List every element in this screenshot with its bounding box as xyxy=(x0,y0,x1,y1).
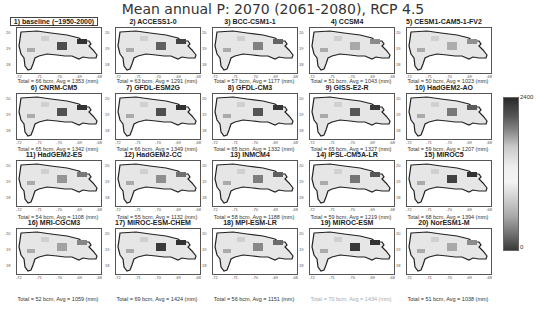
xtick-label: -69 xyxy=(175,207,181,212)
xtick-label: -70 xyxy=(252,140,258,145)
map-panel-17: 17) MIROC-ESM-CHEM 20 19 18 -72-71-70-69… xyxy=(103,219,203,286)
xtick-label: -72 xyxy=(16,275,22,280)
panel-caption: Total = 70 bcm, Avg = 1434 (mm) xyxy=(297,296,405,302)
xtick-label: -70 xyxy=(252,207,258,212)
panel-title: 12) HadGEM2-CC xyxy=(103,151,203,158)
xtick-label: -69 xyxy=(369,275,375,280)
xtick-label: -68 xyxy=(486,140,492,145)
hispaniola-map xyxy=(310,161,394,206)
xtick-label: -71 xyxy=(329,140,335,145)
ytick-label: 18 xyxy=(6,195,10,200)
xtick-row: -72-71-70-69-68 xyxy=(406,207,492,212)
panel-title: 16) MRI-CGCM3 xyxy=(4,219,104,226)
hispaniola-map xyxy=(116,28,200,73)
xtick-label: -72 xyxy=(115,207,121,212)
ytick-label: 19 xyxy=(105,179,109,184)
panel-caption: Total = 69 bcm, Avg = 1424 (mm) xyxy=(103,296,211,302)
panel-title: 7) GFDL-ESM2G xyxy=(103,84,203,91)
ytick-label: 20 xyxy=(299,96,303,101)
xtick-row: -72-71-70-69-68 xyxy=(115,140,201,145)
panel-title: 6) CNRM-CM5 xyxy=(4,84,104,91)
ytick-label: 19 xyxy=(202,179,206,184)
xtick-label: -71 xyxy=(329,207,335,212)
panel-title: 1) baseline (~1950-2000) xyxy=(10,17,98,26)
hispaniola-map xyxy=(213,28,297,73)
ytick-label: 19 xyxy=(396,46,400,51)
map-panel-7: 7) GFDL-ESM2G 20 19 18 -72-71-70-69-68 T… xyxy=(103,84,203,151)
panel-caption: Total = 52 bcm, Avg = 1059 (mm) xyxy=(4,296,112,302)
xtick-label: -71 xyxy=(135,275,141,280)
map-panel-6: 6) CNRM-CM5 20 19 18 -72-71-70-69-68 Tot… xyxy=(4,84,104,151)
panel-title: 8) GFDL-CM3 xyxy=(200,84,300,91)
xtick-label: -70 xyxy=(349,207,355,212)
xtick-row: -72-71-70-69-68 xyxy=(115,207,201,212)
xtick-label: -70 xyxy=(56,140,62,145)
xtick-label: -70 xyxy=(56,275,62,280)
xtick-label: -68 xyxy=(486,275,492,280)
hispaniola-map xyxy=(407,28,491,73)
ytick-label: 20 xyxy=(299,30,303,35)
hispaniola-map xyxy=(407,94,491,139)
map-panel-2: 2) ACCESS1-0 20 19 18 -72-71-70-69-68 To… xyxy=(103,18,203,85)
panel-title: 13) INMCM4 xyxy=(200,151,300,158)
map-panel-9: 9) GISS-E2-R 20 19 18 -72-71-70-69-68 To… xyxy=(297,84,397,151)
xtick-label: -71 xyxy=(426,275,432,280)
xtick-row: -72-71-70-69-68 xyxy=(406,275,492,280)
hispaniola-map xyxy=(213,161,297,206)
ytick-label: 19 xyxy=(202,46,206,51)
xtick-row: -72-71-70-69-68 xyxy=(406,140,492,145)
xtick-label: -70 xyxy=(155,140,161,145)
ytick-label: 19 xyxy=(6,112,10,117)
xtick-label: -72 xyxy=(406,275,412,280)
xtick-label: -71 xyxy=(36,140,42,145)
xtick-label: -72 xyxy=(309,207,315,212)
map-frame xyxy=(16,27,102,74)
panel-caption: Total = 51 bcm, Avg = 1038 (mm) xyxy=(394,296,502,302)
xtick-label: -72 xyxy=(309,275,315,280)
xtick-row: -72-71-70-69-68 xyxy=(309,140,395,145)
xtick-row: -72-71-70-69-68 xyxy=(212,140,298,145)
ytick-label: 18 xyxy=(396,128,400,133)
map-frame xyxy=(16,228,102,275)
xtick-label: -72 xyxy=(16,207,22,212)
map-frame xyxy=(16,93,102,140)
ytick-label: 20 xyxy=(202,231,206,236)
xtick-label: -70 xyxy=(446,275,452,280)
xtick-label: -69 xyxy=(272,275,278,280)
ytick-label: 19 xyxy=(6,46,10,51)
xtick-row: -72-71-70-69-68 xyxy=(16,207,102,212)
xtick-label: -72 xyxy=(212,140,218,145)
ytick-label: 19 xyxy=(105,112,109,117)
ytick-label: 19 xyxy=(299,247,303,252)
xtick-label: -68 xyxy=(96,140,102,145)
xtick-label: -71 xyxy=(426,140,432,145)
hispaniola-map xyxy=(407,229,491,274)
xtick-label: -69 xyxy=(369,140,375,145)
ytick-label: 18 xyxy=(105,263,109,268)
panel-title: 14) IPSL-CM5A-LR xyxy=(297,151,397,158)
map-frame xyxy=(406,228,492,275)
xtick-label: -72 xyxy=(212,207,218,212)
xtick-label: -71 xyxy=(426,207,432,212)
xtick-row: -72-71-70-69-68 xyxy=(309,275,395,280)
ytick-label: 19 xyxy=(299,112,303,117)
xtick-label: -72 xyxy=(309,140,315,145)
ytick-label: 19 xyxy=(396,112,400,117)
map-frame xyxy=(115,93,201,140)
xtick-label: -70 xyxy=(446,140,452,145)
panel-title: 18) MPI-ESM-LR xyxy=(200,219,300,226)
xtick-label: -71 xyxy=(329,275,335,280)
ytick-label: 19 xyxy=(396,247,400,252)
xtick-row: -72-71-70-69-68 xyxy=(212,207,298,212)
map-panel-11: 11) HadGEM2-ES 20 19 18 -72-71-70-69-68 … xyxy=(4,151,104,218)
map-frame xyxy=(115,228,201,275)
map-panel-12: 12) HadGEM2-CC 20 19 18 -72-71-70-69-68 … xyxy=(103,151,203,218)
xtick-label: -70 xyxy=(252,275,258,280)
xtick-label: -72 xyxy=(212,275,218,280)
panel-title: 15) MIROC5 xyxy=(394,151,494,158)
hispaniola-map xyxy=(213,229,297,274)
map-frame xyxy=(212,93,298,140)
hispaniola-map xyxy=(213,94,297,139)
map-frame xyxy=(309,160,395,207)
ytick-label: 20 xyxy=(396,231,400,236)
